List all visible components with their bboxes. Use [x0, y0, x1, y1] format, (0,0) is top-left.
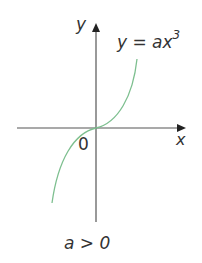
curve-equation: y = ax3	[117, 30, 180, 52]
x-axis-label: x	[176, 130, 185, 149]
equation-text: y = ax	[117, 32, 173, 52]
equation-exponent: 3	[173, 28, 181, 42]
origin-label: 0	[78, 134, 89, 154]
condition-caption: a > 0	[64, 233, 110, 253]
y-axis-arrow-icon	[92, 23, 100, 32]
y-axis-label: y	[76, 14, 86, 34]
cubic-curve	[52, 59, 137, 203]
